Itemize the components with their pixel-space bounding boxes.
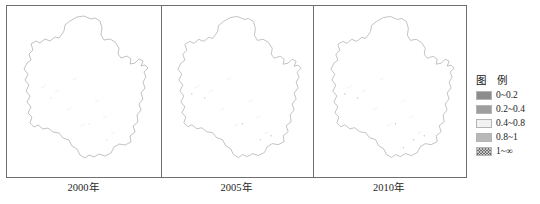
legend-swatch-icon [476,91,492,100]
legend-item-label: 1~∞ [496,146,513,157]
legend-swatch-icon [476,119,492,128]
legend-item-label: 0~0.2 [496,90,518,101]
legend-swatch-icon [476,105,492,114]
legend: 图 例 0~0.2 0.2~0.4 0.4~0.8 0.8~1 1~∞ [476,74,540,159]
map-panel-2005 [161,6,313,177]
panel-caption-2010: 2010年 [312,181,465,195]
panel-caption-2005: 2005年 [160,181,312,195]
map-outline-2010 [314,6,466,177]
legend-item: 0~0.2 [476,89,540,102]
panel-caption-2000: 2000年 [6,181,160,195]
map-outline-2005 [162,6,313,177]
map-panel-2000 [7,6,161,177]
legend-swatch-icon [476,147,492,156]
legend-item: 1~∞ [476,145,540,158]
legend-item-label: 0.2~0.4 [496,104,525,115]
map-outline-2000 [7,6,161,177]
legend-item: 0.2~0.4 [476,103,540,116]
map-panel-2010 [313,6,466,177]
legend-item: 0.4~0.8 [476,117,540,130]
legend-item-label: 0.4~0.8 [496,118,525,129]
legend-item: 0.8~1 [476,131,540,144]
map-figure-frame [6,5,467,178]
legend-swatch-icon [476,133,492,142]
legend-item-label: 0.8~1 [496,132,518,143]
legend-title: 图 例 [476,74,540,87]
